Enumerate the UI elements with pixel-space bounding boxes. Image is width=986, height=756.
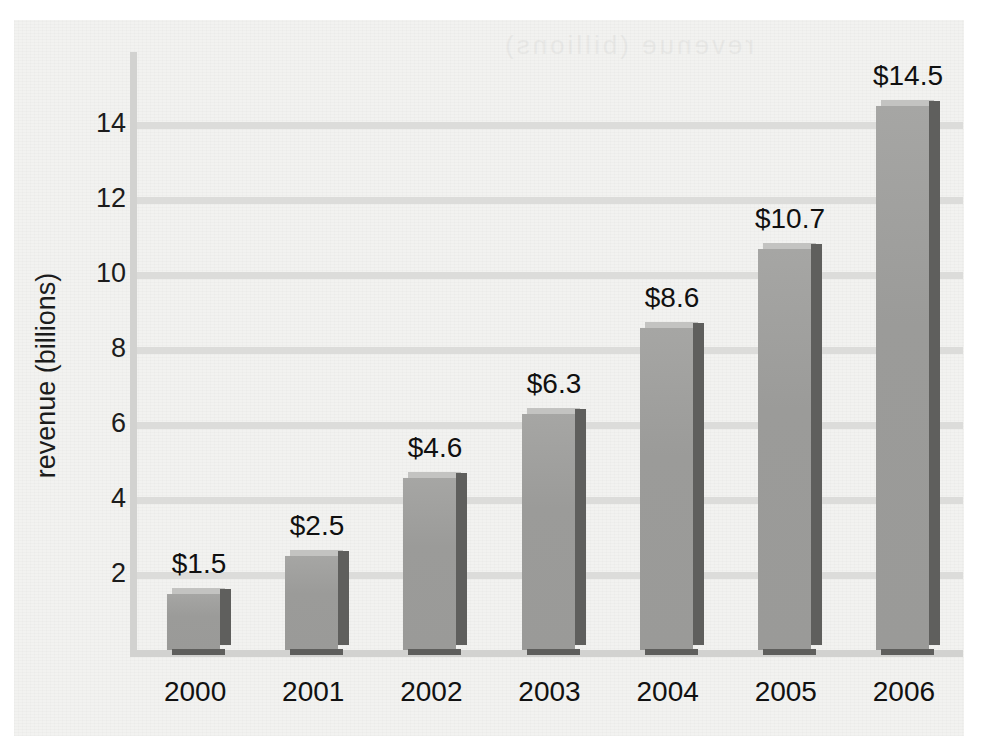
bar-base-shadow: [290, 649, 343, 655]
gridline-12: [136, 197, 963, 204]
y-axis-line: [130, 52, 137, 652]
y-tick-label-14: 14: [66, 108, 126, 139]
bar-base-shadow: [527, 649, 580, 655]
y-tick-label-6: 6: [66, 408, 126, 439]
x-tick-label-2004: 2004: [609, 676, 727, 708]
bar-side-face: [575, 409, 586, 645]
bar-base-shadow: [763, 649, 816, 655]
paper-showthrough-text: revenue (billions): [54, 30, 754, 90]
bar-front-face: [758, 249, 811, 650]
bar-side-face: [811, 244, 822, 645]
bar-2005[interactable]: [758, 243, 811, 650]
bar-2002[interactable]: [403, 472, 456, 651]
bar-front-face: [522, 414, 575, 650]
chart-figure: revenue (billions) revenue (billions) 24…: [0, 0, 986, 756]
bar-2003[interactable]: [522, 408, 575, 650]
y-tick-label-4: 4: [66, 483, 126, 514]
y-axis-title: revenue (billions): [31, 116, 62, 636]
y-tick-label-group: 2468101214: [58, 0, 126, 756]
bar-front-face: [403, 478, 456, 651]
bar-value-label-2003: $6.3: [527, 368, 582, 400]
bar-side-face: [220, 589, 231, 645]
bar-side-face: [693, 323, 704, 646]
bar-value-label-2000: $1.5: [172, 548, 227, 580]
bar-2004[interactable]: [640, 322, 693, 651]
bar-base-shadow: [408, 649, 461, 655]
bar-value-label-2005: $10.7: [755, 203, 825, 235]
bar-front-face: [876, 106, 929, 650]
bar-front-face: [167, 594, 220, 650]
bar-value-label-2002: $4.6: [408, 432, 463, 464]
bar-value-label-2001: $2.5: [290, 510, 345, 542]
y-tick-label-10: 10: [66, 258, 126, 289]
gridline-10: [136, 272, 963, 279]
x-tick-label-2000: 2000: [136, 676, 254, 708]
bar-side-face: [456, 473, 467, 646]
bar-base-shadow: [172, 649, 225, 655]
bar-front-face: [285, 556, 338, 650]
x-tick-label-2001: 2001: [254, 676, 372, 708]
y-tick-label-2: 2: [66, 558, 126, 589]
x-tick-label-2005: 2005: [727, 676, 845, 708]
bar-2001[interactable]: [285, 550, 338, 650]
y-tick-label-8: 8: [66, 333, 126, 364]
gridline-14: [136, 122, 963, 129]
x-tick-label-2006: 2006: [845, 676, 963, 708]
bar-front-face: [640, 328, 693, 651]
bar-base-shadow: [645, 649, 698, 655]
bar-value-label-2004: $8.6: [645, 282, 700, 314]
bar-value-label-2006: $14.5: [873, 60, 943, 92]
gridline-8: [136, 347, 963, 354]
y-tick-label-12: 12: [66, 183, 126, 214]
bar-2006[interactable]: [876, 100, 929, 650]
bar-side-face: [929, 101, 940, 645]
bar-side-face: [338, 551, 349, 645]
bar-base-shadow: [881, 649, 934, 655]
bar-2000[interactable]: [167, 588, 220, 650]
x-tick-label-2002: 2002: [372, 676, 490, 708]
x-tick-label-2003: 2003: [490, 676, 608, 708]
